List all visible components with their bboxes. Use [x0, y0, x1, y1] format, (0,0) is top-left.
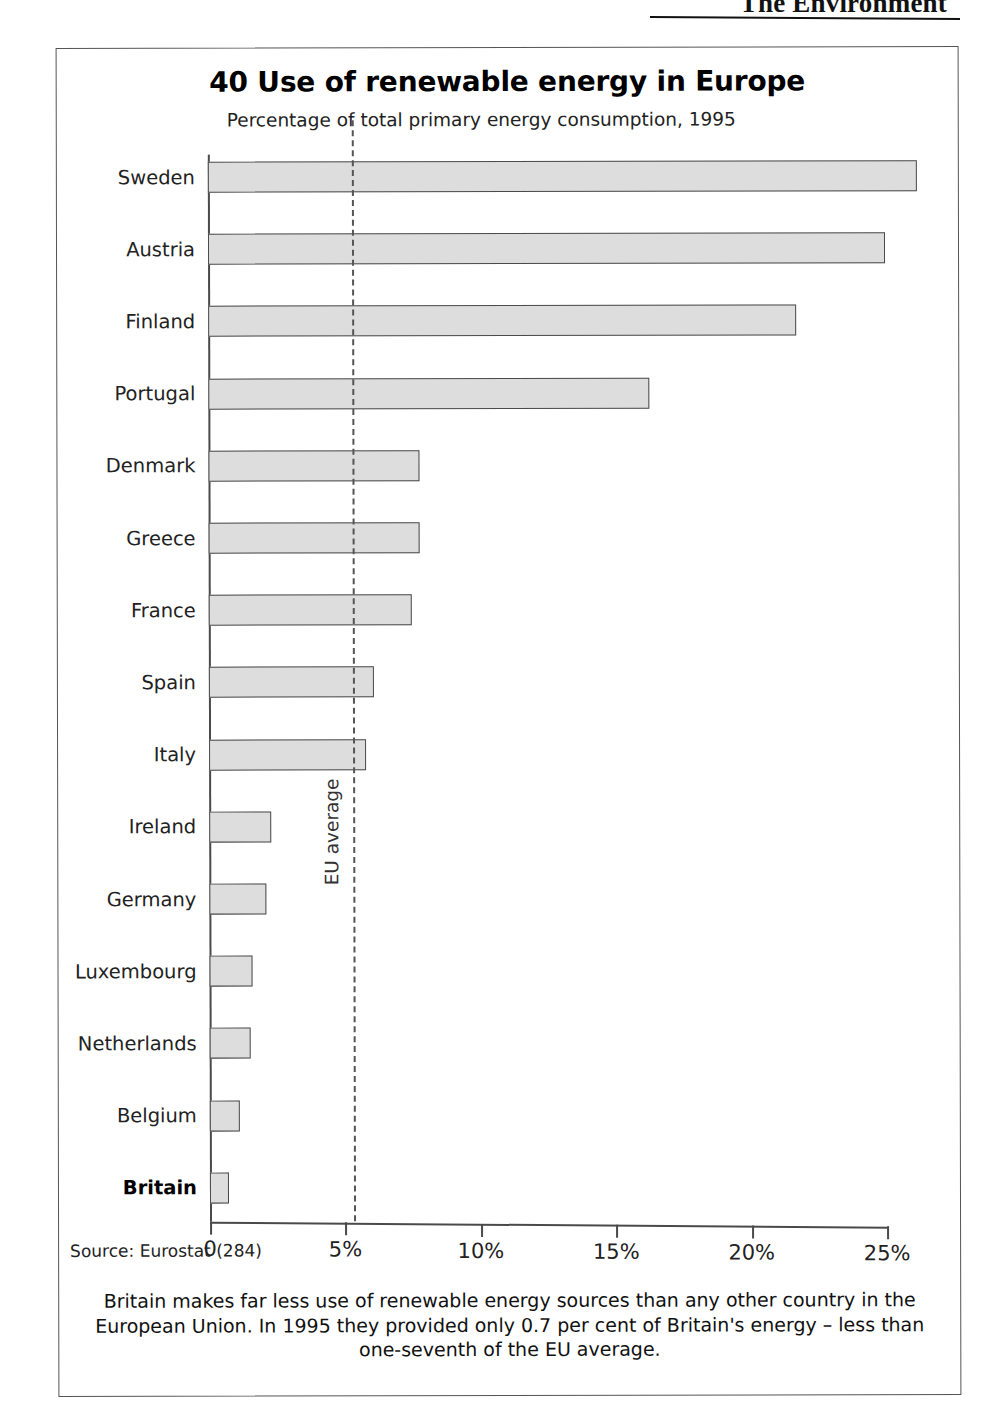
- bar-category-label: France: [131, 599, 196, 622]
- bar-rect: [209, 811, 271, 842]
- bar-category-label: Ireland: [129, 815, 197, 838]
- page-running-header: The Environment: [0, 0, 987, 22]
- bar-category-label: Austria: [126, 238, 195, 261]
- bar-category-label: Germany: [107, 888, 197, 911]
- x-axis-tick-label: 10%: [458, 1239, 505, 1263]
- bar-category-label: Denmark: [106, 454, 196, 477]
- x-axis-tick: [752, 1226, 754, 1239]
- bar-rect: [210, 1028, 251, 1059]
- bar-category-label: Portugal: [115, 382, 196, 405]
- figure-frame: 40 Use of renewable energy in Europe Per…: [56, 46, 962, 1397]
- x-axis-ticks: 05%10%15%20%25%: [208, 153, 908, 154]
- bar-rect: [208, 305, 796, 337]
- bar-category-label: Netherlands: [78, 1032, 197, 1055]
- bars-container: SwedenAustriaFinlandPortugalDenmarkGreec…: [208, 153, 908, 154]
- bar-category-label: Italy: [154, 743, 196, 766]
- x-axis-tick-label: 5%: [329, 1238, 362, 1262]
- bar-rect: [210, 1172, 229, 1203]
- figure-subtitle: Percentage of total primary energy consu…: [227, 109, 736, 131]
- source-line: Source: Eurostat (284): [70, 1241, 262, 1261]
- bar-rect: [208, 377, 649, 409]
- bar-rect: [208, 232, 885, 264]
- bar-rect: [209, 956, 252, 987]
- x-axis-tick: [345, 1223, 347, 1236]
- x-axis-tick-label: 25%: [864, 1242, 911, 1266]
- x-axis-tick-label: 20%: [728, 1241, 775, 1265]
- bar-rect: [208, 450, 419, 481]
- bar-rect: [209, 739, 366, 770]
- bar-category-label: Sweden: [118, 166, 195, 189]
- bar-category-label: Finland: [125, 310, 195, 333]
- x-axis-line: [210, 1222, 889, 1229]
- eu-average-label: EU average: [321, 778, 342, 885]
- bar-category-label: Luxembourg: [75, 960, 197, 983]
- x-axis-tick: [210, 1222, 212, 1235]
- figure-caption: Britain makes far less use of renewable …: [73, 1287, 946, 1363]
- bar-category-label: Spain: [141, 671, 196, 694]
- bar-category-label: Greece: [126, 527, 195, 550]
- x-axis-tick-label: 15%: [593, 1240, 640, 1264]
- bar-rect: [210, 1100, 240, 1131]
- bar-chart-plot-area: SwedenAustriaFinlandPortugalDenmarkGreec…: [208, 153, 910, 1221]
- bar-category-label: Britain: [123, 1176, 197, 1199]
- x-axis-tick: [887, 1227, 889, 1240]
- bar-rect: [208, 160, 918, 192]
- bar-category-label: Belgium: [117, 1104, 197, 1127]
- bar-rect: [209, 594, 412, 625]
- x-axis-tick: [481, 1224, 483, 1237]
- bar-rect: [209, 884, 266, 915]
- x-axis-tick: [616, 1225, 618, 1238]
- bar-rect: [209, 667, 374, 698]
- bar-rect: [209, 522, 420, 553]
- figure-title: 40 Use of renewable energy in Europe: [57, 64, 958, 99]
